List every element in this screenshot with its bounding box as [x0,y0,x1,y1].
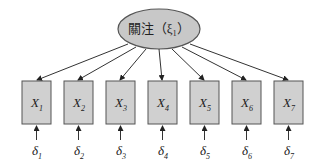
indicator-label: X5 [190,95,220,113]
error-label: δ3 [106,143,136,161]
error-arrows [37,126,289,140]
indicator-label: X7 [274,95,304,113]
indicator-label: X3 [106,95,136,113]
error-label: δ6 [232,143,262,161]
indicator-label: X1 [22,95,52,113]
error-label: δ7 [274,143,304,161]
error-label: δ2 [64,143,94,161]
error-label: δ4 [148,143,178,161]
indicator-label: X2 [64,95,94,113]
indicator-label: X4 [148,95,178,113]
error-label: δ5 [190,143,220,161]
indicator-label: X6 [232,95,262,113]
error-label: δ1 [22,143,52,161]
latent-label: 關注（ξ₁） [118,18,200,37]
